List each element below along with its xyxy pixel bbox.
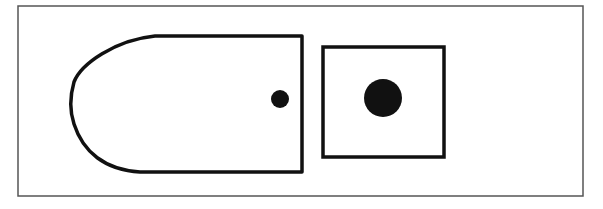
diagram-svg (0, 0, 603, 209)
small-dot (271, 90, 289, 108)
diagram-canvas (0, 0, 603, 209)
large-dot (364, 79, 402, 117)
bullet-shape (71, 36, 302, 172)
